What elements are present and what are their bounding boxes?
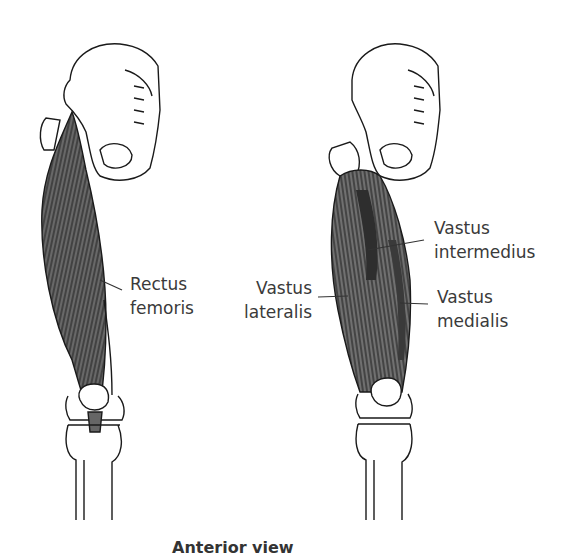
label-line-1: Vastus <box>242 276 312 300</box>
label-vastus-intermedius: Vastus intermedius <box>434 216 535 264</box>
label-line-1: Rectus <box>130 272 194 296</box>
label-line-1: Vastus <box>437 285 508 309</box>
label-rectus-femoris: Rectus femoris <box>130 272 194 320</box>
label-line-1: Vastus <box>434 216 535 240</box>
label-line-2: intermedius <box>434 240 535 264</box>
left-patella <box>79 384 109 410</box>
patellar-tendon <box>88 412 102 432</box>
obturator-foramen <box>380 144 412 168</box>
label-vastus-lateralis: Vastus lateralis <box>242 276 312 324</box>
figure-caption: Anterior view <box>172 538 294 557</box>
label-line-2: medialis <box>437 309 508 333</box>
right-leg-vasti <box>329 44 440 520</box>
label-line-2: lateralis <box>242 300 312 324</box>
label-line-2: femoris <box>130 296 194 320</box>
obturator-foramen <box>100 144 132 168</box>
label-vastus-medialis: Vastus medialis <box>437 285 508 333</box>
right-patella <box>371 378 401 406</box>
